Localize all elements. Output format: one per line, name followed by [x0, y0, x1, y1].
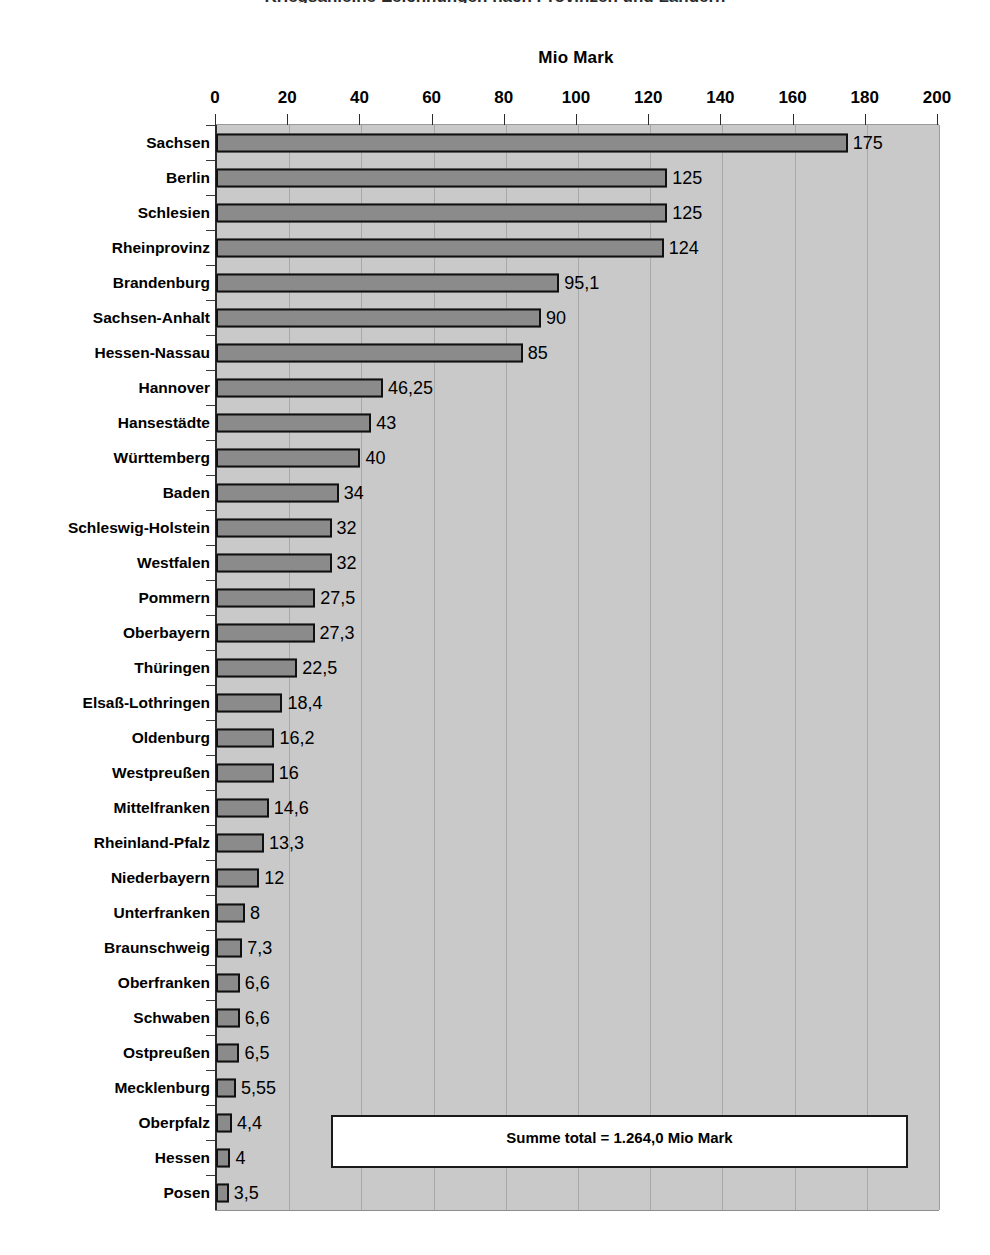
bar-row: Berlin125: [0, 160, 990, 195]
category-label: Sachsen: [146, 134, 210, 152]
bar-row: Pommern27,5: [0, 580, 990, 615]
category-tick: [206, 335, 215, 336]
category-label: Oldenburg: [132, 729, 210, 747]
x-tick-label-20: 20: [278, 88, 297, 108]
bar-value-label: 32: [332, 552, 357, 573]
category-label: Hessen: [155, 1149, 210, 1167]
x-axis-tick-180: [865, 114, 866, 125]
bar-row: Brandenburg95,1: [0, 265, 990, 300]
x-tick-label-40: 40: [350, 88, 369, 108]
bar: [216, 623, 315, 642]
category-tick: [206, 440, 215, 441]
category-label: Hansestädte: [118, 414, 210, 432]
category-label: Unterfranken: [114, 904, 210, 922]
category-tick: [206, 510, 215, 511]
category-label: Westfalen: [137, 554, 210, 572]
bar-value-label: 95,1: [559, 272, 599, 293]
bar-value-label: 6,6: [240, 972, 270, 993]
category-label: Mecklenburg: [114, 1079, 210, 1097]
bar-row: Schlesien125: [0, 195, 990, 230]
category-label: Oberfranken: [118, 974, 210, 992]
category-tick: [206, 1000, 215, 1001]
x-tick-label-80: 80: [494, 88, 513, 108]
bar: [216, 133, 848, 152]
x-axis-tick-200: [937, 114, 938, 125]
category-label: Posen: [163, 1184, 210, 1202]
bar-row: Hannover46,25: [0, 370, 990, 405]
category-label: Rheinprovinz: [112, 239, 210, 257]
bar: [216, 1008, 240, 1027]
x-tick-label-100: 100: [562, 88, 590, 108]
category-label: Schlesien: [138, 204, 210, 222]
bar-value-label: 90: [541, 307, 566, 328]
category-tick: [206, 860, 215, 861]
x-axis-tick-60: [432, 114, 433, 125]
bar: [216, 658, 297, 677]
axis-title-text: Mio Mark: [538, 48, 613, 67]
bar-value-label: 85: [523, 342, 548, 363]
category-tick: [206, 895, 215, 896]
bar-row: Oberfranken6,6: [0, 965, 990, 1000]
category-label: Thüringen: [134, 659, 210, 677]
bar-row: Oberbayern27,3: [0, 615, 990, 650]
category-tick: [206, 825, 215, 826]
x-tick-label-140: 140: [706, 88, 734, 108]
bar-value-label: 12: [259, 867, 284, 888]
x-tick-label-0: 0: [210, 88, 219, 108]
bar-value-label: 32: [332, 517, 357, 538]
bar: [216, 343, 523, 362]
category-tick: [206, 615, 215, 616]
bar-row: Westpreußen16: [0, 755, 990, 790]
bar: [216, 868, 259, 887]
category-tick: [206, 1105, 215, 1106]
x-axis-tick-40: [359, 114, 360, 125]
summe-total-box: Summe total = 1.264,0 Mio Mark: [331, 1115, 908, 1168]
bar-value-label: 46,25: [383, 377, 433, 398]
category-tick: [206, 405, 215, 406]
page-title-sliver: Kriegsanleihe-Zeichnungen nach Provinzen…: [0, 0, 990, 3]
x-axis-tick-100: [576, 114, 577, 125]
bar-row: Schleswig-Holstein32: [0, 510, 990, 545]
summe-total-label: Summe total = 1.264,0 Mio Mark: [333, 1129, 906, 1146]
axis-title: Mio Mark: [0, 48, 990, 68]
category-label: Sachsen-Anhalt: [93, 309, 210, 327]
bar-value-label: 27,3: [315, 622, 355, 643]
category-label: Württemberg: [114, 449, 210, 467]
bar: [216, 553, 332, 572]
bar: [216, 1148, 230, 1167]
bar: [216, 1043, 239, 1062]
bar-row: Hessen-Nassau85: [0, 335, 990, 370]
category-label: Hessen-Nassau: [95, 344, 210, 362]
bar: [216, 973, 240, 992]
category-tick: [206, 790, 215, 791]
bar-value-label: 8: [245, 902, 260, 923]
bar: [216, 378, 383, 397]
bar-row: Schwaben6,6: [0, 1000, 990, 1035]
category-tick: [206, 1070, 215, 1071]
bar: [216, 1183, 229, 1202]
category-tick: [206, 475, 215, 476]
bar-value-label: 3,5: [229, 1182, 259, 1203]
bar: [216, 168, 667, 187]
category-label: Baden: [163, 484, 210, 502]
category-tick: [206, 650, 215, 651]
category-label: Brandenburg: [113, 274, 210, 292]
bar-row: Hansestädte43: [0, 405, 990, 440]
x-tick-label-200: 200: [923, 88, 951, 108]
category-label: Mittelfranken: [114, 799, 210, 817]
bar: [216, 588, 315, 607]
x-tick-label-160: 160: [778, 88, 806, 108]
category-tick: [206, 755, 215, 756]
bar: [216, 203, 667, 222]
x-axis-tick-20: [287, 114, 288, 125]
category-label: Oberbayern: [123, 624, 210, 642]
bar-value-label: 40: [360, 447, 385, 468]
category-label: Oberpfalz: [139, 1114, 210, 1132]
bar-value-label: 34: [339, 482, 364, 503]
bar: [216, 728, 274, 747]
bar-row: Westfalen32: [0, 545, 990, 580]
bar-row: Sachsen175: [0, 125, 990, 160]
x-tick-label-60: 60: [422, 88, 441, 108]
category-label: Schleswig-Holstein: [68, 519, 210, 537]
category-label: Schwaben: [133, 1009, 210, 1027]
